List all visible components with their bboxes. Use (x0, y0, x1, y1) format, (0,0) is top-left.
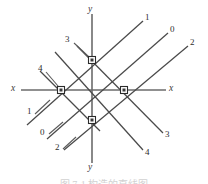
node-top (89, 57, 96, 64)
diagram-canvas (0, 0, 208, 184)
line-label-1-upper-right: 1 (145, 13, 150, 22)
node-left (58, 87, 65, 94)
stub-label-2-lower (63, 137, 76, 149)
figure-root: x x y y 4 3 1 0 2 1 0 2 3 4 图 7-1 构造的直线图 (0, 0, 208, 184)
lattice-line-up-0 (47, 33, 168, 139)
line-label-1-lower-left: 1 (27, 107, 32, 116)
x-axis-label-left: x (11, 84, 15, 94)
node-right (121, 87, 128, 94)
line-label-0-upper-right: 0 (170, 25, 175, 34)
line-label-2-lower-left: 2 (55, 143, 60, 152)
line-label-3-lower-right: 3 (165, 130, 170, 139)
x-axis-label-right: x (169, 84, 173, 94)
y-axis-label-top: y (88, 5, 92, 15)
node-bottom (89, 117, 96, 124)
line-label-3-upper-center: 3 (65, 35, 70, 44)
line-label-2-upper-right: 2 (190, 38, 195, 47)
figure-caption: 图 7-1 构造的直线图 (0, 176, 208, 184)
stub-label-0-lower (49, 122, 63, 134)
lattice-line-up-1 (27, 21, 143, 125)
line-label-4-lower-right: 4 (145, 148, 150, 157)
stub-label-3-upper (74, 43, 89, 57)
line-label-0-lower-left: 0 (40, 128, 45, 137)
line-label-4-upper-left: 4 (38, 64, 43, 73)
y-axis-label-bottom: y (88, 163, 92, 173)
